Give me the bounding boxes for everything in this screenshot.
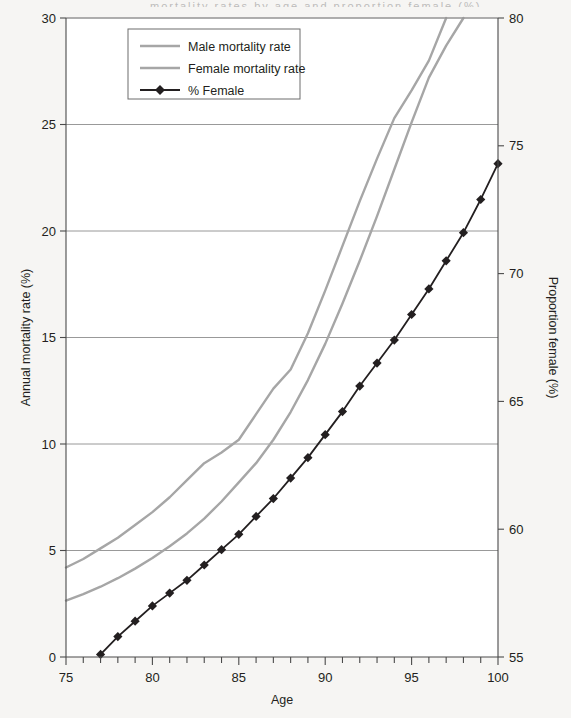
xtick-label-80: 80: [145, 670, 159, 685]
legend-item-label: Female mortality rate: [188, 62, 305, 76]
chart-figure: 0510152025305560657075807580859095100Age…: [0, 0, 571, 718]
mortality-chart-svg: 0510152025305560657075807580859095100Age…: [0, 0, 571, 718]
xtick-label-90: 90: [318, 670, 332, 685]
ytick-label-left-25: 25: [42, 117, 56, 132]
legend-item-label: % Female: [188, 84, 244, 98]
ytick-label-left-0: 0: [49, 650, 56, 665]
ytick-label-right-55: 55: [509, 650, 523, 665]
legend: Male mortality rateFemale mortality rate…: [128, 29, 305, 99]
ytick-label-right-80: 80: [509, 11, 523, 26]
legend-item-label: Male mortality rate: [188, 40, 291, 54]
ytick-label-left-30: 30: [42, 11, 56, 26]
ytick-label-right-70: 70: [509, 266, 523, 281]
ytick-label-left-10: 10: [42, 437, 56, 452]
x-axis-title: Age: [271, 693, 293, 707]
y-axis-title-left: Annual mortality rate (%): [19, 269, 33, 407]
ytick-label-right-65: 65: [509, 394, 523, 409]
xtick-label-100: 100: [487, 670, 509, 685]
ytick-label-left-5: 5: [49, 543, 56, 558]
ytick-label-left-20: 20: [42, 224, 56, 239]
xtick-label-95: 95: [404, 670, 418, 685]
ytick-label-right-60: 60: [509, 522, 523, 537]
ytick-label-right-75: 75: [509, 138, 523, 153]
y-axis-title-right: Proportion female (%): [546, 277, 560, 399]
xtick-label-85: 85: [232, 670, 246, 685]
ytick-label-left-15: 15: [42, 330, 56, 345]
xtick-label-75: 75: [59, 670, 73, 685]
